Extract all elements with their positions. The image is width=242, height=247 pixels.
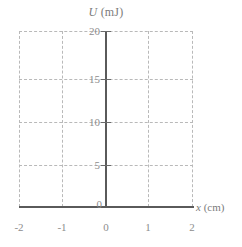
x-axis-label: x (cm) (196, 201, 224, 213)
y-axis-line (105, 31, 107, 208)
gridline-vertical-plus1 (148, 31, 149, 207)
gridline-vertical-minus2 (19, 31, 20, 207)
y-tick-label-15: 15 (74, 74, 100, 85)
chart-title: U (mJ) (0, 5, 212, 20)
y-tick-mark-15 (101, 79, 111, 80)
x-tick-label-0: 0 (91, 222, 121, 233)
x-axis-label-unit: (cm) (204, 201, 225, 213)
x-tick-label-minus1: -1 (47, 222, 77, 233)
potential-energy-graph: U (mJ) 20 15 10 5 0 -2 -1 0 1 2 x (cm) (0, 0, 242, 247)
y-tick-label-20: 20 (74, 26, 100, 37)
x-tick-label-minus2: -2 (4, 222, 34, 233)
y-tick-label-5: 5 (74, 160, 100, 171)
chart-title-unit: (mJ) (101, 5, 124, 19)
y-tick-mark-10 (101, 122, 111, 123)
y-tick-label-10: 10 (74, 117, 100, 128)
gridline-vertical-minus1 (62, 31, 63, 207)
gridline-vertical-plus2 (192, 31, 193, 207)
x-tick-label-1: 1 (133, 222, 163, 233)
x-tick-label-2: 2 (177, 222, 207, 233)
y-tick-mark-5 (101, 165, 111, 166)
y-tick-label-0: 0 (88, 199, 102, 210)
y-tick-mark-20 (101, 31, 111, 32)
